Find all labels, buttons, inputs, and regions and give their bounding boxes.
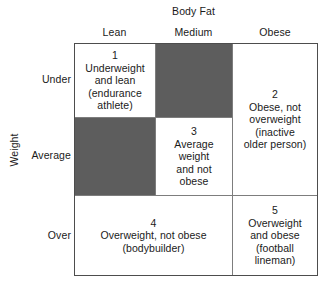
matrix-cell-2: 2 Obese, not overweight (inactive older … [233,44,317,195]
row-header-average: Average [0,149,71,162]
matrix-cell-4: 4 Overweight, not obese (bodybuilder) [75,196,232,275]
column-axis-title: Body Fat [155,5,232,17]
matrix-cell-4-text: 4 Overweight, not obese (bodybuilder) [100,217,206,254]
column-header-obese: Obese [232,26,318,39]
row-header-under: Under [0,73,71,86]
matrix-cell-5: 5 Overweight and obese (football lineman… [233,196,317,275]
matrix-cell-1: 1 Underweight and lean (endurance athlet… [75,44,155,117]
shaded-block-average-lean [75,118,155,195]
matrix-cell-2-text: 2 Obese, not overweight (inactive older … [244,88,307,150]
matrix-cell-3-text: 3 Average weight and not obese [174,125,213,187]
matrix-cell-3: 3 Average weight and not obese [156,118,232,195]
matrix-cell-1-text: 1 Underweight and lean (endurance athlet… [85,49,145,111]
column-header-medium: Medium [155,26,232,39]
column-header-lean: Lean [74,26,155,39]
matrix-grid: 1 Underweight and lean (endurance athlet… [74,43,318,276]
shaded-block-under-medium [156,44,232,117]
row-header-over: Over [0,229,71,242]
matrix-cell-5-text: 5 Overweight and obese (football lineman… [248,204,302,266]
